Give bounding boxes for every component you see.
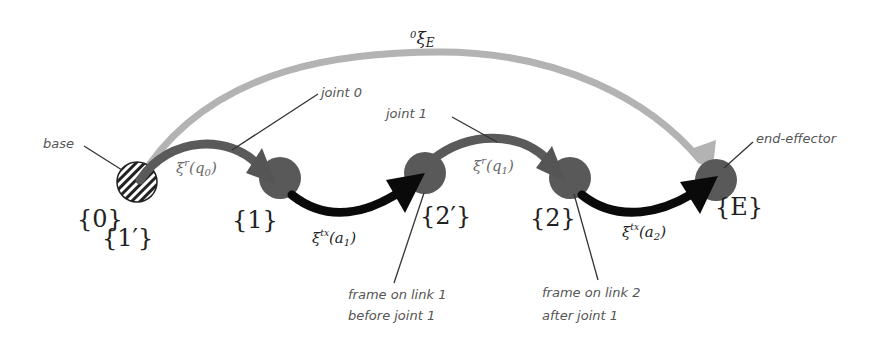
leader-base xyxy=(84,146,122,170)
translation-label-a1: ξtx(a1) xyxy=(312,228,356,248)
kinematic-chain-diagram: {0} {1′} {1} {2′} {2} {E} 0ξE ξr(q0) ξtx… xyxy=(0,0,896,345)
leader-joint0 xyxy=(232,94,318,150)
frame-label-E: {E} xyxy=(715,193,763,221)
frame-label-1: {1} xyxy=(232,206,278,234)
annotation-joint1: joint 1 xyxy=(384,106,427,121)
frame-label-2: {2} xyxy=(530,204,576,232)
translation-label-a2: ξtx(a2) xyxy=(622,222,666,242)
rotation-label-q1: ξr(q1) xyxy=(473,155,514,176)
frame-label-2prime: {2′} xyxy=(420,202,471,230)
annotation-frame-link2-line2: after joint 1 xyxy=(542,308,618,323)
rotation-label-q0: ξr(q0) xyxy=(176,157,217,178)
annotation-frame-link1-line1: frame on link 1 xyxy=(348,287,446,302)
annotation-end-effector: end-effector xyxy=(756,131,838,146)
annotation-frame-link1-line2: before joint 1 xyxy=(348,308,435,323)
leader-end-effector xyxy=(724,142,753,168)
annotation-base: base xyxy=(43,136,74,151)
translation-arrow-a1 xyxy=(292,173,425,213)
annotation-joint0: joint 0 xyxy=(319,85,362,100)
annotation-frame-link2-line1: frame on link 2 xyxy=(542,285,640,300)
translation-arrow-a2 xyxy=(582,176,718,214)
total-transform-label: 0ξE xyxy=(410,28,435,50)
frame-label-1prime: {1′} xyxy=(102,224,153,252)
